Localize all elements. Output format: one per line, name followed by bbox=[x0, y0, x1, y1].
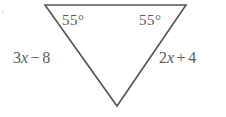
side-label-right: 2x+4 bbox=[159, 50, 196, 66]
side-left-coefficient: 3 bbox=[13, 49, 21, 66]
geometry-figure: 55° 55° 3x−8 2x+4 bbox=[0, 0, 226, 117]
side-left-operator: − bbox=[28, 49, 42, 66]
angle-label-top-left: 55° bbox=[62, 13, 85, 28]
side-left-constant: 8 bbox=[42, 49, 50, 66]
image-artifact-speck bbox=[1, 10, 4, 13]
side-right-operator: + bbox=[174, 49, 188, 66]
side-label-left: 3x−8 bbox=[13, 50, 50, 66]
side-right-coefficient: 2 bbox=[159, 49, 167, 66]
angle-label-top-right: 55° bbox=[139, 13, 162, 28]
side-right-constant: 4 bbox=[188, 49, 196, 66]
